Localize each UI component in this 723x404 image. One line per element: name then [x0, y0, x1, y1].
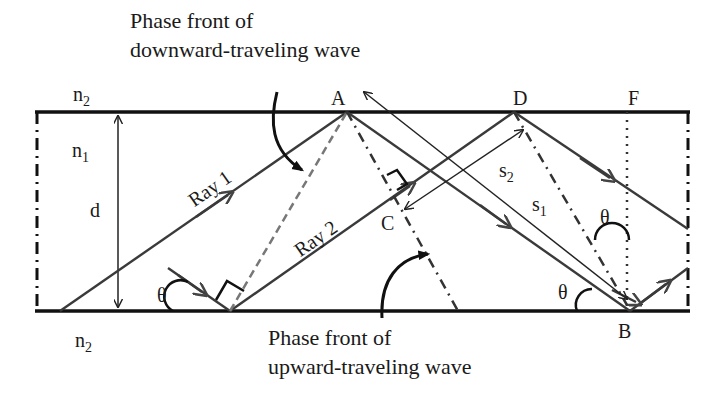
point-C-label: C: [381, 213, 394, 233]
waveguide-diagram: Phase front of downward-traveling wave P…: [0, 0, 723, 404]
top-cladding-index-label: n2: [73, 84, 90, 109]
theta-arc-left: [164, 280, 188, 311]
upward-phase-front-dashdot-D: [514, 112, 627, 305]
bottom-cladding-index-label: n2: [75, 330, 92, 355]
theta-label-right: θ: [558, 282, 568, 302]
theta-arc-right: [576, 289, 592, 311]
right-angle-marker-lower: [216, 281, 244, 300]
theta-label-left: θ: [157, 285, 167, 305]
point-B-label: B: [618, 321, 631, 341]
downward-phase-front-caption: Phase front of downward-traveling wave: [130, 6, 360, 64]
upward-caption-pointer: [382, 254, 428, 318]
s2-label: s2: [499, 160, 514, 185]
s1-arrow: [364, 92, 627, 299]
s1-label: s1: [532, 194, 547, 219]
theta-label-vertical: θ: [600, 207, 610, 227]
point-A-label: A: [331, 88, 345, 108]
point-F-label: F: [628, 88, 639, 108]
upward-phase-front-dashdot-A: [347, 112, 458, 311]
downward-phase-front-dashed: [230, 112, 347, 311]
downward-caption-pointer: [273, 92, 302, 170]
right-angle-marker-upper: [387, 170, 407, 190]
thickness-label: d: [90, 200, 100, 220]
point-D-label: D: [513, 88, 527, 108]
core-index-label: n1: [72, 140, 89, 165]
upward-phase-front-caption: Phase front of upward-traveling wave: [268, 323, 471, 381]
